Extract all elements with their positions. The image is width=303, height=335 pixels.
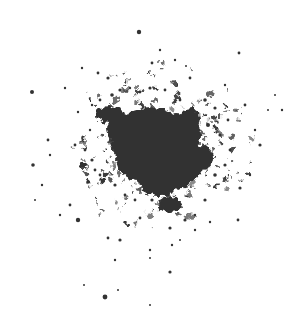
dense-core [71, 60, 254, 230]
particle-cluster-graphic [0, 0, 303, 335]
splatter-image [0, 0, 303, 335]
